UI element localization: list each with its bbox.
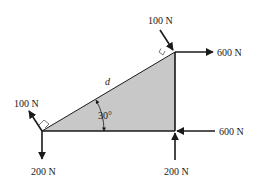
free-body-diagram: 100 N 600 N 600 N 200 N 100 N 200 N d 30… [0, 0, 263, 190]
label-bottom-right-horizontal: 600 N [219, 126, 244, 137]
label-angle: 30° [98, 110, 112, 121]
force-arrow-top-normal [160, 30, 173, 50]
right-angle-mark-bottom-left [39, 120, 49, 128]
label-top-horizontal: 600 N [217, 47, 242, 58]
label-top-normal: 100 N [148, 15, 173, 26]
label-bottom-right-vertical: 200 N [164, 166, 189, 177]
force-arrow-bottom-left-normal [29, 111, 42, 131]
label-hypotenuse-d: d [105, 76, 111, 87]
label-bottom-left-vertical: 200 N [31, 166, 56, 177]
right-angle-mark-top [159, 49, 165, 56]
label-bottom-left-normal: 100 N [14, 98, 39, 109]
